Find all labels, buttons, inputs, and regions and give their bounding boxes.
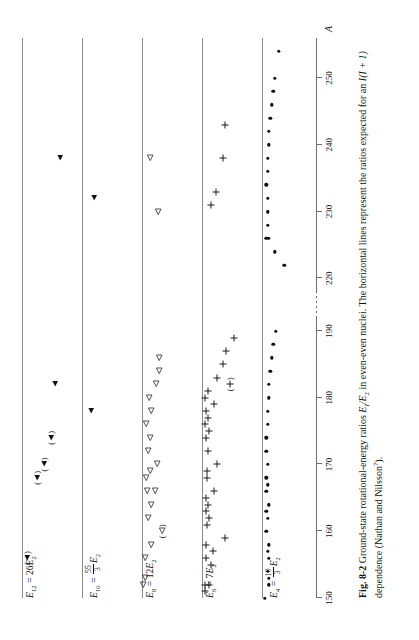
x-tick-label-150: 150 [324, 591, 334, 605]
reference-line-label-E4: E4 = 103E2 [265, 557, 282, 598]
caption-text-2: in even-even nuclei. The horizontal line… [357, 81, 368, 392]
reference-line-E8 [142, 38, 143, 598]
caption-symbol-E2-sub: 2 [363, 392, 370, 395]
paren-right: ) [226, 377, 235, 380]
reference-line-label-E10: E10 = 553E2 [85, 554, 102, 598]
x-tick-170 [316, 464, 322, 465]
series-band-E6: E6 = 7E2 [202, 38, 258, 598]
x-tick-230 [316, 211, 322, 212]
caption-reference-number: 7 [372, 463, 379, 466]
x-tick-label-230: 230 [324, 205, 334, 219]
x-tick-label-160: 160 [324, 525, 334, 539]
paren-right: ) [158, 524, 167, 527]
series-band-E10: E10 = 553E2 [82, 38, 138, 598]
caption-symbol-divE: /E [357, 395, 368, 404]
figure-body: E12 = 26E2E10 = 553E2E8 = 12E2E6 = 7E2E4… [0, 0, 419, 640]
x-tick-180 [316, 397, 322, 398]
x-tick-label-250: 250 [324, 71, 334, 85]
paren-right: ) [23, 551, 32, 554]
paren-left: ( [23, 562, 32, 565]
caption-symbol-E: E [357, 407, 368, 413]
paren-right: ) [46, 431, 55, 434]
caption-symbol-Iplus1: (I + 1) [357, 51, 368, 78]
paren-left: ( [158, 535, 167, 538]
rotated-figure-wrapper: E12 = 26E2E10 = 553E2E8 = 12E2E6 = 7E2E4… [0, 0, 419, 640]
reference-line-label-E6: E6 = 7E2 [205, 564, 217, 598]
reference-line-E4 [262, 38, 263, 598]
series-band-E4: E4 = 103E2 [262, 38, 318, 598]
x-tick-160 [316, 530, 322, 531]
x-tick-label-190: 190 [324, 324, 334, 338]
reference-line-E12 [22, 38, 23, 598]
caption-symbol-E-sub: I [363, 404, 370, 406]
paren-left: ( [39, 469, 48, 472]
caption-text-1: Ground-state rotational-energy ratios [357, 413, 368, 564]
caption-text-3: dependence (Nathan and Nilsson [373, 466, 384, 598]
figure-caption: Fig. 8-2 Ground-state rotational-energy … [356, 38, 385, 598]
series-band-E12: E12 = 26E2 [22, 38, 78, 598]
x-axis-line [316, 38, 317, 598]
reference-line-E6 [202, 38, 203, 598]
x-tick-label-170: 170 [324, 458, 334, 472]
reference-line-E10 [82, 38, 83, 598]
x-tick-190 [316, 330, 322, 331]
x-tick-label-220: 220 [324, 272, 334, 286]
series-band-E8: E8 = 12E2 [142, 38, 198, 598]
figure-number: Fig. 8-2 [357, 566, 368, 598]
figure-page: E12 = 26E2E10 = 553E2E8 = 12E2E6 = 7E2E4… [0, 0, 419, 640]
paren-right: ) [39, 458, 48, 461]
x-axis-break [316, 292, 317, 318]
x-tick-240 [316, 144, 322, 145]
x-tick-label-240: 240 [324, 138, 334, 152]
paren-left: ( [33, 482, 42, 485]
caption-symbol-I: I [357, 78, 368, 81]
plot-area: E12 = 26E2E10 = 553E2E8 = 12E2E6 = 7E2E4… [8, 38, 308, 598]
x-axis-title: A [323, 26, 334, 32]
paren-left: ( [226, 388, 235, 391]
x-tick-label-180: 180 [324, 391, 334, 405]
x-tick-220 [316, 277, 322, 278]
x-tick-150 [316, 597, 322, 598]
x-tick-250 [316, 77, 322, 78]
reference-line-label-E8: E8 = 12E2 [145, 559, 157, 598]
caption-text-4: ). [373, 457, 384, 463]
paren-left: ( [46, 442, 55, 445]
